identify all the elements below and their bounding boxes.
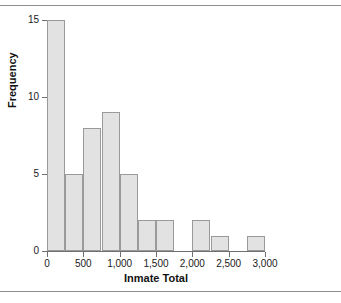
x-tick-label: 2,500: [216, 259, 241, 269]
histogram-chart: 051015 05001,0001,5002,0002,5003,000 Fre…: [0, 0, 341, 303]
bar-series: [47, 20, 265, 251]
histogram-bar: [138, 220, 156, 251]
histogram-bar: [192, 220, 210, 251]
y-tick-label: 5: [33, 169, 39, 179]
histogram-bar: [65, 174, 83, 251]
histogram-bar: [102, 112, 120, 251]
x-tick-label: 1,000: [107, 259, 132, 269]
histogram-bar: [120, 174, 138, 251]
x-tick-mark: [120, 252, 121, 257]
histogram-bar: [83, 128, 101, 251]
histogram-bar: [247, 236, 265, 251]
x-tick-mark: [47, 252, 48, 257]
x-tick-label: 500: [75, 259, 92, 269]
y-tick-mark: [42, 97, 47, 98]
histogram-bar: [156, 220, 174, 251]
x-tick-mark: [229, 252, 230, 257]
x-tick-label: 1,500: [143, 259, 168, 269]
histogram-bar: [211, 236, 229, 251]
x-tick-label: 3,000: [252, 259, 277, 269]
x-tick-mark: [83, 252, 84, 257]
x-tick-mark: [265, 252, 266, 257]
y-tick-label: 0: [33, 246, 39, 256]
histogram-bar: [47, 20, 65, 251]
x-tick-label: 0: [44, 259, 50, 269]
y-tick-mark: [42, 20, 47, 21]
y-tick-mark: [42, 174, 47, 175]
x-axis-title: Inmate Total: [47, 272, 265, 284]
y-axis-title: Frequency: [6, 52, 18, 108]
x-tick-mark: [192, 252, 193, 257]
y-tick-label: 10: [28, 92, 39, 102]
x-tick-label: 2,000: [180, 259, 205, 269]
y-tick-label: 15: [28, 15, 39, 25]
x-tick-mark: [156, 252, 157, 257]
